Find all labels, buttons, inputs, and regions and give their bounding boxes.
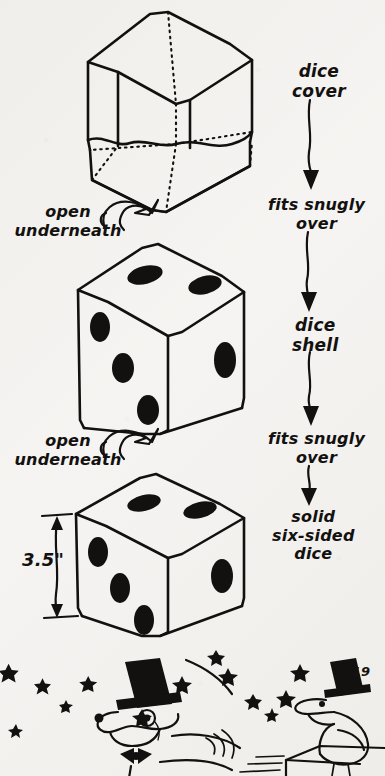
height-dimension-label: 3.5": [22, 550, 64, 571]
callout-open-underneath-2: open underneath: [8, 432, 128, 469]
label-fits-snugly-over-1: fits snugly over: [268, 196, 365, 233]
diagram-artwork: .ink { fill:none; stroke:#13110f; stroke…: [0, 0, 385, 776]
dice-shell-cube: [78, 244, 244, 434]
dice-shell-pips: [90, 262, 236, 425]
solid-dice-pips: [88, 491, 233, 635]
page-number: 19: [352, 664, 370, 679]
dice-cover-cube: [88, 12, 252, 212]
dog-in-top-hat: [95, 658, 241, 776]
label-fits-snugly-over-2: fits snugly over: [268, 430, 365, 467]
label-dice-cover: dice cover: [292, 62, 346, 101]
ledge-motion-lines: [240, 756, 284, 772]
solid-dice-cube: [76, 474, 244, 636]
label-dice-shell: dice shell: [292, 316, 338, 355]
motion-lines: [206, 730, 234, 758]
flow-arrow-2: [301, 232, 317, 312]
flow-arrow-1: [303, 100, 319, 190]
label-solid-six-sided-dice: solid six-sided dice: [272, 508, 355, 564]
flow-arrow-3: [303, 352, 319, 426]
notebook-page: .ink { fill:none; stroke:#13110f; stroke…: [0, 0, 385, 776]
bottom-vignette: [0, 650, 385, 776]
flow-arrow-4: [301, 466, 317, 506]
callout-open-underneath-1: open underneath: [8, 203, 128, 240]
